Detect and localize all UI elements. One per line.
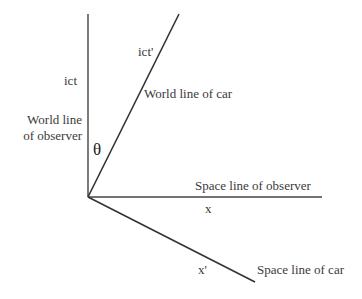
world-line-observer-label-1: World line [2, 112, 82, 127]
world-line-car-label: World line of car [144, 86, 232, 101]
space-line-observer-label: Space line of observer [195, 178, 311, 193]
world-line-of-car [88, 14, 179, 197]
space-line-car-label: Space line of car [257, 262, 344, 277]
x-label: x [205, 201, 212, 216]
diagram-lines [0, 0, 362, 299]
ict-prime-label: ict' [138, 44, 153, 59]
world-line-observer-label-2: of observer [2, 128, 82, 143]
spacetime-diagram: ict' ict World line of car World line of… [0, 0, 362, 299]
theta-angle-label: θ [93, 142, 101, 157]
space-line-of-car [88, 197, 255, 282]
x-prime-label: x' [198, 262, 207, 277]
ict-label: ict [64, 73, 77, 88]
